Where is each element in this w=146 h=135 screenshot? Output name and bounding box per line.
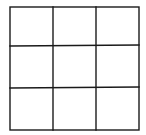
grid-outer-border (10, 7, 139, 130)
grid-horizontal-line-2 (10, 87, 139, 88)
grid-diagram (0, 0, 146, 135)
grid-horizontal-line-1 (10, 45, 139, 46)
grid-svg (0, 0, 146, 135)
